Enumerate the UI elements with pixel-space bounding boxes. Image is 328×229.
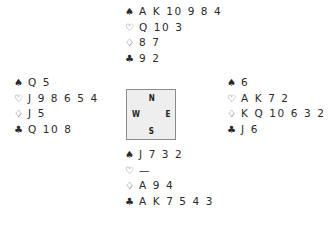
spade-icon: ♠ bbox=[125, 147, 139, 163]
west-hand: ♠ Q 5 ♡ J 9 8 6 5 4 ♢ J 5 ♣ Q 10 8 bbox=[14, 75, 99, 137]
diamond-icon: ♢ bbox=[125, 35, 139, 51]
east-diamonds-cards: K Q 10 6 3 2 bbox=[241, 106, 325, 122]
north-spades: ♠ A K 10 9 8 4 bbox=[125, 4, 222, 20]
west-clubs-cards: Q 10 8 bbox=[28, 122, 73, 138]
diamond-icon: ♢ bbox=[125, 178, 139, 194]
heart-icon: ♡ bbox=[125, 163, 139, 179]
south-diamonds: ♢ A 9 4 bbox=[125, 178, 214, 194]
south-hearts-cards: — bbox=[139, 163, 151, 179]
west-clubs: ♣ Q 10 8 bbox=[14, 122, 99, 138]
heart-icon: ♡ bbox=[125, 20, 139, 36]
north-diamonds-cards: 8 7 bbox=[139, 35, 161, 51]
north-diamonds: ♢ 8 7 bbox=[125, 35, 222, 51]
west-spades: ♠ Q 5 bbox=[14, 75, 99, 91]
club-icon: ♣ bbox=[227, 122, 241, 138]
compass-south-label: S bbox=[149, 126, 154, 136]
south-diamonds-cards: A 9 4 bbox=[139, 178, 174, 194]
west-diamonds-cards: J 5 bbox=[28, 106, 46, 122]
compass-west-label: W bbox=[132, 109, 140, 119]
north-hearts: ♡ Q 10 3 bbox=[125, 20, 222, 36]
west-hearts-cards: J 9 8 6 5 4 bbox=[28, 91, 99, 107]
west-spades-cards: Q 5 bbox=[28, 75, 51, 91]
club-icon: ♣ bbox=[125, 51, 139, 67]
spade-icon: ♠ bbox=[227, 75, 241, 91]
north-hand: ♠ A K 10 9 8 4 ♡ Q 10 3 ♢ 8 7 ♣ 9 2 bbox=[125, 4, 222, 66]
south-spades: ♠ J 7 3 2 bbox=[125, 147, 214, 163]
heart-icon: ♡ bbox=[227, 91, 241, 107]
east-hand: ♠ 6 ♡ A K 7 2 ♢ K Q 10 6 3 2 ♣ J 6 bbox=[227, 75, 325, 137]
east-hearts: ♡ A K 7 2 bbox=[227, 91, 325, 107]
east-diamonds: ♢ K Q 10 6 3 2 bbox=[227, 106, 325, 122]
north-spades-cards: A K 10 9 8 4 bbox=[139, 4, 222, 20]
north-hearts-cards: Q 10 3 bbox=[139, 20, 184, 36]
south-clubs-cards: A K 7 5 4 3 bbox=[139, 194, 214, 210]
compass-east-label: E bbox=[166, 109, 171, 119]
heart-icon: ♡ bbox=[14, 91, 28, 107]
west-diamonds: ♢ J 5 bbox=[14, 106, 99, 122]
compass-box: N W E S bbox=[126, 89, 176, 140]
spade-icon: ♠ bbox=[125, 4, 139, 20]
east-clubs: ♣ J 6 bbox=[227, 122, 325, 138]
east-clubs-cards: J 6 bbox=[241, 122, 259, 138]
south-hearts: ♡ — bbox=[125, 163, 214, 179]
spade-icon: ♠ bbox=[14, 75, 28, 91]
diamond-icon: ♢ bbox=[227, 106, 241, 122]
west-hearts: ♡ J 9 8 6 5 4 bbox=[14, 91, 99, 107]
east-spades: ♠ 6 bbox=[227, 75, 325, 91]
club-icon: ♣ bbox=[125, 194, 139, 210]
north-clubs-cards: 9 2 bbox=[139, 51, 161, 67]
east-hearts-cards: A K 7 2 bbox=[241, 91, 290, 107]
east-spades-cards: 6 bbox=[241, 75, 249, 91]
south-spades-cards: J 7 3 2 bbox=[139, 147, 183, 163]
south-clubs: ♣ A K 7 5 4 3 bbox=[125, 194, 214, 210]
south-hand: ♠ J 7 3 2 ♡ — ♢ A 9 4 ♣ A K 7 5 4 3 bbox=[125, 147, 214, 209]
compass-north-label: N bbox=[149, 93, 155, 103]
north-clubs: ♣ 9 2 bbox=[125, 51, 222, 67]
diamond-icon: ♢ bbox=[14, 106, 28, 122]
club-icon: ♣ bbox=[14, 122, 28, 138]
